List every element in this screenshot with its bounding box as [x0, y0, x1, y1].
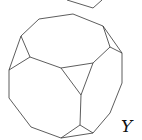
- polyhedron-inner-edges: [9, 26, 122, 138]
- axis-label-y: Y: [121, 118, 132, 135]
- polyhedron-edge: [80, 125, 93, 133]
- polyhedron-edge: [61, 63, 93, 68]
- polyhedron-edge: [61, 125, 80, 138]
- polyhedron-edge: [30, 57, 61, 68]
- polyhedron-edge: [21, 36, 30, 57]
- polyhedron-edge: [61, 68, 81, 95]
- polyhedron-edge: [9, 57, 30, 70]
- polyhedron-edge: [81, 63, 93, 95]
- polyhedron-edge: [80, 95, 81, 125]
- polyhedron-edge: [93, 47, 110, 63]
- partial-top-shape: [67, 0, 102, 8]
- polyhedron-edge: [103, 26, 110, 47]
